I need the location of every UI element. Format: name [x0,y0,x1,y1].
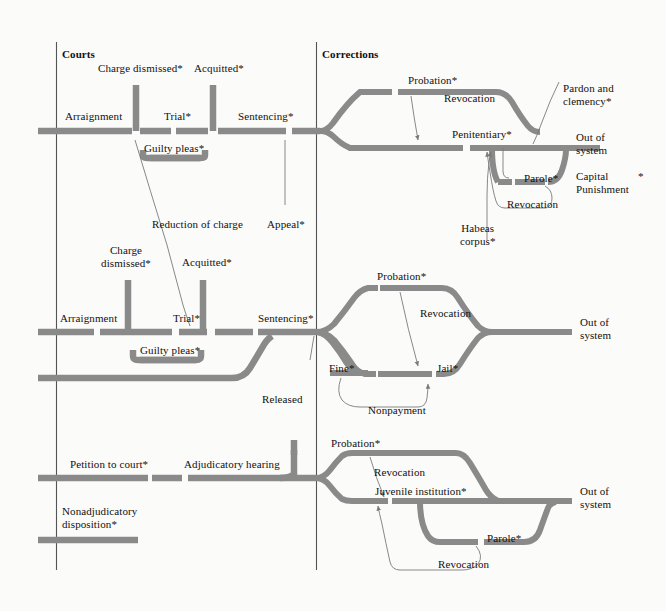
misdemeanor-stage-guilty-pleas: Guilty pleas* [140,344,200,357]
felony-transition-revocation-parole: Revocation [507,198,558,211]
felony-penitentiary-entry [320,131,463,148]
misdemeanor-revocation-arrow [400,292,418,366]
felony-parole-inner-left [503,148,509,178]
juvenile-probation-entry [316,453,362,478]
juvenile-stage-parole: Parole* [487,532,521,545]
misdemeanor-stage-sentencing: Sentencing* [258,312,313,325]
juvenile-transition-revocation-parole: Revocation [438,558,489,571]
misdemeanor-exit-acquitted: Acquitted* [182,256,232,269]
juvenile-parole-entry [420,501,452,542]
misdemeanor-flow-bands [38,280,316,378]
felony-stage-penitentiary: Penitentiary* [452,128,512,141]
juvenile-stage-juvenile-institution: Juvenile institution* [375,485,467,498]
misdemeanor-stage-fine: Fine* [329,362,355,375]
diagram-canvas: Courts Corrections Arraignment Charge di… [0,0,666,611]
juvenile-parole-exit [524,502,556,542]
section-label-courts: Courts [62,48,95,61]
section-label-corrections: Corrections [322,48,379,61]
misdemeanor-exit-charge-dismissed: Charge dismissed* [90,244,162,270]
felony-to-misdemeanor-reduction-line [135,140,190,326]
felony-stage-sentencing: Sentencing* [238,110,293,123]
juvenile-stage-probation: Probation* [331,437,380,450]
misdemeanor-thin-connectors [310,292,428,407]
misdemeanor-probation-entry [316,288,378,332]
misdemeanor-stage-probation: Probation* [377,270,426,283]
felony-stage-guilty-pleas: Guilty pleas* [144,142,204,155]
felony-transition-habeas-corpus: Habeas corpus* [460,222,496,248]
juvenile-transition-revocation-probation: Revocation [374,466,425,479]
felony-stage-arraignment: Arraignment [65,110,122,123]
felony-stage-trial: Trial* [164,110,191,123]
felony-parole-entry-left [492,148,498,182]
misdemeanor-stage-trial: Trial* [173,312,200,325]
felony-thin-connectors [135,82,559,326]
felony-transition-pardon-clemency: Pardon and clemency* [563,82,614,108]
felony-exit-acquitted: Acquitted* [194,62,244,75]
felony-exit-charge-dismissed: Charge dismissed* [98,62,183,75]
felony-pardon-clemency-line [533,82,559,144]
misdemeanor-transition-nonpayment: Nonpayment [368,404,426,417]
cross-track-appeal: Appeal* [267,218,305,231]
misdemeanor-stage-arraignment: Arraignment [60,312,117,325]
felony-transition-capital-punishment: Capital Punishment [576,170,629,196]
felony-transition-revocation-probation: Revocation [444,92,495,105]
misdemeanor-exit-out-of-system: Out of system [580,316,611,342]
cross-track-reduction-of-charge: Reduction of charge [152,218,243,231]
misdemeanor-transition-revocation: Revocation [420,307,471,320]
felony-stage-parole: Parole* [524,172,558,185]
felony-probation-entry [320,92,392,131]
misdemeanor-nonpayment-arrow [339,378,428,407]
felony-exit-out-of-system: Out of system [576,131,607,157]
juvenile-exit-released: Released [262,393,303,406]
juvenile-exit-out-of-system: Out of system [580,485,611,511]
juvenile-stage-adjudicatory-hearing: Adjudicatory hearing [184,458,280,471]
felony-probation-revocation-arrow [411,96,418,140]
juvenile-stage-petition-to-court: Petition to court* [70,458,148,471]
misdemeanor-fine-thin-stub [310,336,314,360]
juvenile-stage-nonadjudicatory-disposition: Nonadjudicatory disposition* [62,505,137,531]
felony-stage-probation: Probation* [408,74,457,87]
felony-capital-punishment-asterisk: * [638,170,644,183]
misdemeanor-stage-jail: Jail* [437,362,458,375]
